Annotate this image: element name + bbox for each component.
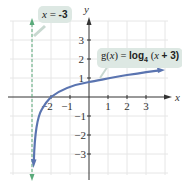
svg-text:2: 2 (79, 53, 85, 65)
svg-text:−1: −1 (74, 110, 86, 122)
svg-text:3: 3 (79, 34, 85, 46)
svg-text:−2: −2 (74, 129, 86, 141)
svg-text:2: 2 (124, 100, 130, 112)
y-axis: 3 2 1 −1 −2 −3 y (74, 3, 91, 180)
svg-text:−1: −1 (61, 100, 73, 112)
graph: −2 −1 1 2 3 x 3 2 1 −1 −2 −3 y (0, 0, 182, 183)
svg-text:1: 1 (105, 100, 111, 112)
x-axis: −2 −1 1 2 3 x (8, 91, 180, 112)
svg-text:3: 3 (143, 100, 149, 112)
x-axis-label: x (174, 91, 180, 103)
svg-text:−3: −3 (74, 148, 86, 160)
y-axis-label: y (83, 3, 89, 15)
asymptote-label: x = -3 (38, 6, 72, 23)
function-label: g(x) = log4 (x + 3) (97, 48, 182, 68)
